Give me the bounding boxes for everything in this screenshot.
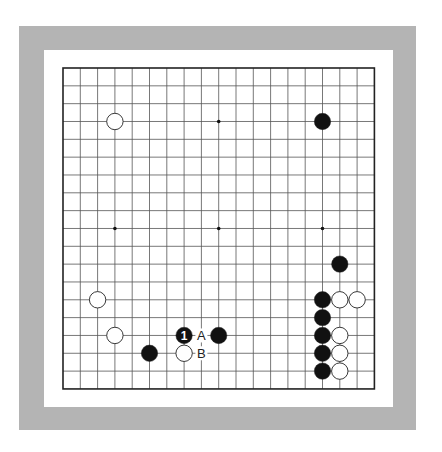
move-number-label: 1 xyxy=(181,329,188,343)
white-stone xyxy=(332,327,348,343)
black-stone xyxy=(314,327,330,343)
white-stone xyxy=(176,345,192,361)
marker-label-b: B xyxy=(197,346,206,361)
white-stone xyxy=(332,292,348,308)
black-stone xyxy=(314,113,330,129)
white-stone xyxy=(332,363,348,379)
black-stone xyxy=(314,345,330,361)
star-point xyxy=(321,227,325,231)
black-stone xyxy=(314,363,330,379)
marker-label-a: A xyxy=(197,328,206,343)
black-stone xyxy=(211,327,227,343)
go-board: AB1 xyxy=(0,0,442,452)
white-stone xyxy=(107,113,123,129)
white-stone xyxy=(332,345,348,361)
white-stone xyxy=(349,292,365,308)
black-stone xyxy=(141,345,157,361)
black-stone xyxy=(314,309,330,325)
star-point xyxy=(217,120,221,124)
white-stone xyxy=(107,327,123,343)
white-stone xyxy=(89,292,105,308)
black-stone xyxy=(314,292,330,308)
black-stone xyxy=(332,256,348,272)
star-point xyxy=(113,227,117,231)
star-point xyxy=(217,227,221,231)
